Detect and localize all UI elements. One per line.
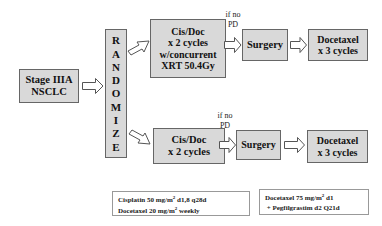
induction-dosing-note: Cisplatin 50 mg/m2 d1,8 q28d Docetaxel 2… xyxy=(112,191,250,216)
consolidation-note-line1: Docetaxel 75 mg/m2 d1 xyxy=(265,193,363,204)
randomize-letter: R xyxy=(112,34,120,46)
randomize-letter: O xyxy=(112,87,121,99)
randomize-box: RANDOMIZE xyxy=(105,29,127,158)
randomize-letter: M xyxy=(111,101,121,113)
arm-a-docetaxel-line2: x 3 cycles xyxy=(318,45,358,57)
arm-a-chemo-line4: XRT 50.4Gy xyxy=(161,60,214,72)
arrow-diagonal-up-icon xyxy=(127,38,151,58)
arm-b-docetaxel-line2: x 3 cycles xyxy=(318,147,358,159)
arm-a-chemoradiation-box: Cis/Doc x 2 cycles w/concurrent XRT 50.4… xyxy=(150,19,226,78)
arm-a-docetaxel-box: Docetaxel x 3 cycles xyxy=(308,29,368,61)
arm-a-docetaxel-line1: Docetaxel xyxy=(317,34,359,46)
induction-note-line1: Cisplatin 50 mg/m2 d1,8 q28d xyxy=(118,195,244,206)
arrow-right-icon xyxy=(219,137,236,153)
arrow-right-icon xyxy=(82,78,104,94)
arm-b-chemo-line1: Cis/Doc xyxy=(172,134,207,146)
arm-b-docetaxel-line1: Docetaxel xyxy=(317,135,359,147)
start-line1: Stage IIIA xyxy=(26,74,73,86)
arm-b-condition-line2: PD xyxy=(214,121,236,131)
arm-a-condition-label: if no PD xyxy=(222,10,244,29)
start-line2: NSCLC xyxy=(31,86,67,98)
consolidation-note-line2: + Pegfilgrastim d2 Q21d xyxy=(265,204,363,213)
arm-b-docetaxel-box: Docetaxel x 3 cycles xyxy=(307,130,368,163)
arm-a-surgery-box: Surgery xyxy=(242,29,288,61)
arm-a-chemo-line2: x 2 cycles xyxy=(168,37,208,49)
consolidation-dosing-note: Docetaxel 75 mg/m2 d1 + Pegfilgrastim d2… xyxy=(259,189,369,215)
arm-a-chemo-line3: w/concurrent xyxy=(159,49,216,61)
stage-iiia-nsclc-box: Stage IIIA NSCLC xyxy=(19,69,79,103)
arm-a-condition-line1: if no xyxy=(222,10,244,20)
arm-b-condition-line1: if no xyxy=(214,111,236,121)
randomize-letter: D xyxy=(112,74,120,86)
arm-a-surgery-label: Surgery xyxy=(247,39,283,51)
randomize-letter: N xyxy=(112,61,120,73)
arrow-right-icon xyxy=(284,137,305,153)
randomize-letter: A xyxy=(112,48,120,60)
arrow-right-icon xyxy=(224,37,242,53)
arm-a-chemo-line1: Cis/Doc xyxy=(171,26,204,38)
arm-b-surgery-box: Surgery xyxy=(236,130,281,160)
arrow-diagonal-down-icon xyxy=(128,128,152,148)
arm-b-chemo-box: Cis/Doc x 2 cycles xyxy=(153,128,225,164)
randomize-letter: Z xyxy=(112,127,119,139)
randomize-letter: E xyxy=(112,141,119,153)
induction-note-line2: Docetaxel 20 mg/m2 weekly xyxy=(118,206,244,217)
arm-b-surgery-label: Surgery xyxy=(241,139,275,151)
arm-a-condition-line2: PD xyxy=(222,20,244,30)
arm-b-condition-label: if no PD xyxy=(214,111,236,130)
arrow-right-icon xyxy=(290,37,307,53)
arm-b-chemo-line2: x 2 cycles xyxy=(168,146,210,158)
randomize-letter: I xyxy=(114,114,118,126)
